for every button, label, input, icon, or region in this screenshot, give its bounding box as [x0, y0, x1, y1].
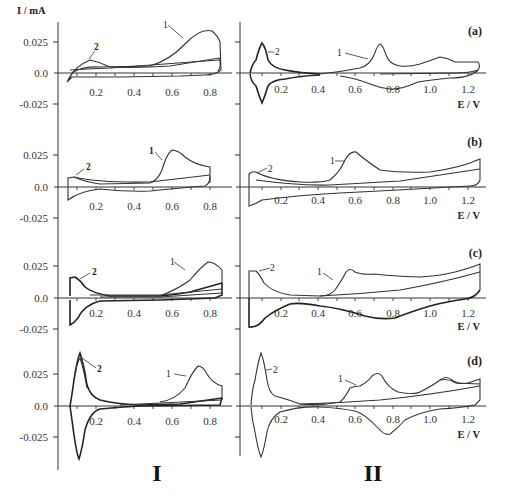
- svg-text:0.4: 0.4: [311, 194, 325, 206]
- svg-text:0.2: 0.2: [89, 86, 103, 98]
- x-tick-labels-col2-d: 0.2 0.4 0.6 0.8 1.0 1.2: [274, 413, 475, 425]
- svg-text:0.6: 0.6: [165, 200, 179, 212]
- svg-text:0.2: 0.2: [89, 200, 103, 212]
- svg-text:2: 2: [268, 164, 273, 174]
- ytick-b-pos: 0.025: [23, 149, 48, 161]
- svg-text:0.8: 0.8: [386, 413, 400, 425]
- svg-text:0.8: 0.8: [203, 86, 217, 98]
- panel-label-d: (d): [467, 354, 482, 368]
- svg-text:2: 2: [92, 267, 97, 277]
- ytick-d-zero: 0.0: [34, 400, 48, 412]
- y-axis-title: I / mA: [17, 5, 46, 16]
- svg-text:1.2: 1.2: [461, 413, 475, 425]
- svg-text:1.0: 1.0: [423, 83, 437, 95]
- svg-text:0.4: 0.4: [127, 86, 141, 98]
- svg-text:0.8: 0.8: [203, 200, 217, 212]
- svg-text:0.6: 0.6: [348, 413, 362, 425]
- svg-text:2: 2: [94, 42, 99, 52]
- ytick-d-neg: -0.025: [20, 431, 49, 443]
- svg-text:0.6: 0.6: [348, 83, 362, 95]
- ytick-d-pos: 0.025: [23, 368, 48, 380]
- svg-text:1: 1: [163, 20, 168, 30]
- x-tick-labels-col2-a: 0.2 0.4 0.6 0.8 1.0 1.2: [274, 83, 475, 95]
- svg-text:2: 2: [275, 47, 280, 57]
- svg-text:0.8: 0.8: [203, 415, 217, 427]
- ytick-b-neg: -0.025: [20, 212, 49, 224]
- svg-text:1: 1: [149, 146, 154, 156]
- svg-text:1: 1: [166, 369, 171, 379]
- x-tick-labels-col1-c: 0.2 0.4 0.6 0.8: [89, 307, 217, 319]
- x-axis-title-b: E / V: [457, 210, 480, 221]
- svg-text:0.6: 0.6: [165, 86, 179, 98]
- x-axis-title-d: E / V: [457, 429, 480, 440]
- svg-text:1: 1: [317, 267, 322, 277]
- x-tick-labels-col1-a: 0.2 0.4 0.6 0.8: [89, 86, 217, 98]
- x-axis-title-c: E / V: [457, 321, 480, 332]
- cyclic-voltammogram-figure: I / mA 0.025 0.0 -0.025 0.025 0.0 -0.025…: [0, 0, 510, 497]
- x-axes-col2: [236, 73, 486, 406]
- column-label-II: II: [364, 460, 383, 486]
- ytick-c-zero: 0.0: [34, 292, 48, 304]
- panel-b-col1-curves: 1 2: [68, 146, 210, 200]
- svg-text:1.0: 1.0: [423, 413, 437, 425]
- panel-d-col2-curves: 1 2: [251, 353, 480, 457]
- ytick-c-neg: -0.025: [20, 323, 49, 335]
- x-minor-ticks-col2: [262, 73, 468, 409]
- svg-text:0.2: 0.2: [89, 307, 103, 319]
- svg-text:0.2: 0.2: [274, 83, 288, 95]
- svg-text:2: 2: [86, 162, 91, 172]
- svg-text:1.0: 1.0: [423, 194, 437, 206]
- svg-text:2: 2: [273, 365, 278, 375]
- svg-text:0.6: 0.6: [165, 307, 179, 319]
- svg-text:2: 2: [270, 263, 275, 273]
- panel-label-b: (b): [467, 135, 482, 149]
- y-ticks-col1: [53, 42, 58, 437]
- svg-text:0.6: 0.6: [165, 415, 179, 427]
- svg-text:1.2: 1.2: [461, 194, 475, 206]
- ytick-b-zero: 0.0: [34, 181, 48, 193]
- panel-label-a: (a): [468, 24, 482, 38]
- ytick-c-pos: 0.025: [23, 260, 48, 272]
- ytick-a-neg: -0.025: [20, 98, 49, 110]
- svg-text:0.4: 0.4: [127, 415, 141, 427]
- svg-text:0.4: 0.4: [311, 307, 325, 319]
- svg-text:1: 1: [338, 374, 343, 384]
- svg-text:0.4: 0.4: [127, 307, 141, 319]
- svg-text:1: 1: [337, 48, 342, 58]
- svg-text:0.4: 0.4: [311, 83, 325, 95]
- svg-text:0.8: 0.8: [386, 194, 400, 206]
- ytick-a-zero: 0.0: [34, 67, 48, 79]
- svg-text:0.2: 0.2: [274, 194, 288, 206]
- svg-text:0.4: 0.4: [311, 413, 325, 425]
- y-ticks-col2: [235, 42, 240, 437]
- svg-text:1: 1: [330, 156, 335, 166]
- ytick-a-pos: 0.025: [23, 36, 48, 48]
- x-tick-labels-col1-d: 0.2 0.4 0.6 0.8: [89, 415, 217, 427]
- svg-text:1.0: 1.0: [423, 307, 437, 319]
- column-1-axes: 0.025 0.0 -0.025 0.025 0.0 -0.025 0.025 …: [20, 22, 232, 470]
- svg-text:0.6: 0.6: [348, 194, 362, 206]
- x-axis-title-a: E / V: [457, 99, 480, 110]
- x-tick-labels-col1-b: 0.2 0.4 0.6 0.8: [89, 200, 217, 212]
- x-minor-ticks-col1: [77, 73, 210, 409]
- svg-text:1.2: 1.2: [461, 307, 475, 319]
- column-label-I: I: [152, 460, 161, 486]
- panel-b-col2-curves: 1 2: [249, 152, 480, 206]
- svg-text:1: 1: [170, 257, 175, 267]
- svg-text:2: 2: [97, 364, 102, 374]
- svg-text:1.2: 1.2: [461, 83, 475, 95]
- panel-label-c: (c): [469, 246, 482, 260]
- svg-text:0.4: 0.4: [127, 200, 141, 212]
- svg-text:0.8: 0.8: [203, 307, 217, 319]
